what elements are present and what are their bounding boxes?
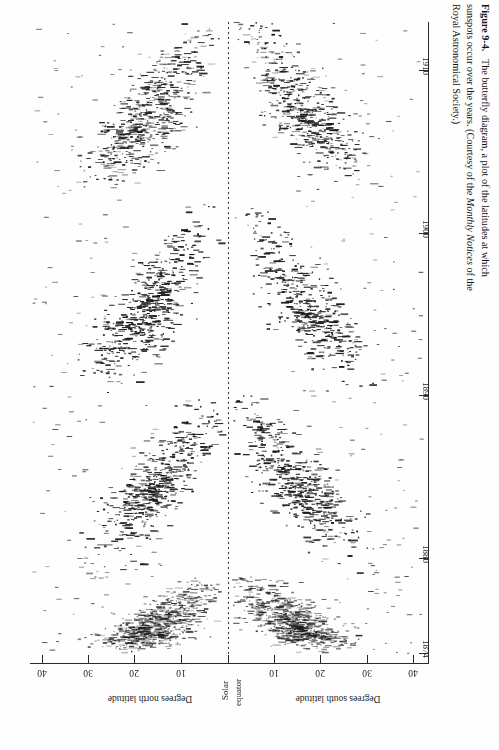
equator-label-solar: Solar <box>220 681 230 700</box>
year-tick-label: 1910 <box>421 57 431 97</box>
caption-line-3: Royal Astronomical Society.) <box>451 4 462 124</box>
caption-line-2b: of the <box>465 265 476 291</box>
latitude-tick <box>413 655 414 664</box>
latitude-tick-label: 30 <box>68 668 108 678</box>
butterfly-plot <box>30 22 428 663</box>
caption-line-2a: sunspots occur over the years. (Courtesy… <box>465 4 476 198</box>
year-tick-label: 1900 <box>421 220 431 260</box>
latitude-tick <box>228 655 229 664</box>
latitude-tick <box>42 655 43 664</box>
latitude-tick <box>181 655 182 664</box>
latitude-tick-label: 40 <box>22 668 62 678</box>
figure-page: Degrees north latitude Degrees south lat… <box>0 0 499 750</box>
equator-label-equator: equator <box>233 679 243 706</box>
latitude-tick <box>134 655 135 664</box>
latitude-tick <box>320 655 321 664</box>
figure-number: Figure 9-4. <box>480 4 491 51</box>
axis-title-south: Degrees south latitude <box>248 694 428 704</box>
year-tick-label: 1874 <box>421 640 431 680</box>
latitude-tick <box>274 655 275 664</box>
latitude-tick <box>88 655 89 664</box>
figure-caption: Figure 9-4. The butterfly diagram, a plo… <box>448 4 492 644</box>
latitude-axis-line <box>30 663 429 664</box>
year-tick-label: 1890 <box>421 382 431 422</box>
axis-title-north: Degrees north latitude <box>60 694 240 704</box>
latitude-tick-label: 20 <box>114 668 154 678</box>
latitude-tick-label: 20 <box>300 668 340 678</box>
caption-line-1: The butterfly diagram, a plot of the lat… <box>480 59 491 277</box>
solar-equator-line <box>228 22 229 663</box>
sunspot-scatter-canvas <box>30 22 428 663</box>
latitude-tick-label: 30 <box>347 668 387 678</box>
journal-name: Monthly Notices <box>465 198 476 265</box>
latitude-tick-label: 10 <box>161 668 201 678</box>
latitude-tick <box>367 655 368 664</box>
latitude-tick-label: 10 <box>254 668 294 678</box>
year-tick-label: 1880 <box>421 545 431 585</box>
